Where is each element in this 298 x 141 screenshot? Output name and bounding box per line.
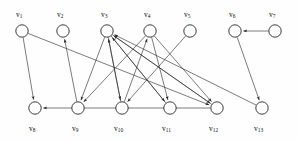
node-v11[interactable] [164,102,176,114]
node-label-sub-v7: 7 [273,13,276,19]
bipartite-graph-figure: v1v2v3v4v5v6v7v8v9v10v11v12v13 [0,0,298,141]
node-label-sub-v3: 3 [105,13,108,19]
node-label-v2: v2 [57,10,63,19]
node-v3[interactable] [101,25,113,37]
node-v7[interactable] [269,25,281,37]
node-label-v9: v9 [72,124,78,133]
node-label-v7: v7 [269,10,275,19]
node-v10[interactable] [116,102,128,114]
node-label-sub-v2: 2 [61,13,64,19]
node-label-sub-v8: 8 [33,127,36,133]
node-label-sub-v10: 10 [118,127,123,133]
node-label-sub-v5: 5 [188,13,191,19]
node-v4[interactable] [144,25,156,37]
node-label-sub-v12: 12 [213,127,218,133]
node-v1[interactable] [16,25,28,37]
node-label-v5: v5 [184,10,190,19]
edge-v4-to-v12 [154,36,211,102]
edge-v6-to-v13 [237,37,259,100]
node-label-v3: v3 [101,10,107,19]
edge-layer [23,31,268,108]
edge-v1-to-v12 [28,33,209,104]
edge-v9-to-v2 [65,39,77,101]
edge-v10-to-v3 [109,39,121,101]
node-label-v4: v4 [144,10,150,19]
node-v9[interactable] [72,102,84,114]
edge-v1-to-v8 [23,38,34,100]
node-label-sub-v1: 1 [20,13,23,19]
node-label-sub-v11: 11 [166,127,171,133]
node-v12[interactable] [211,102,223,114]
node-label-v6: v6 [229,10,235,19]
node-v2[interactable] [57,25,69,37]
edge-v3-to-v9 [81,37,105,100]
node-v6[interactable] [229,25,241,37]
node-label-v8: v8 [29,124,35,133]
node-v8[interactable] [29,102,41,114]
node-v13[interactable] [256,102,268,114]
edge-v11-to-v3 [112,38,166,103]
edge-v4-to-v11 [152,37,168,99]
graph-canvas [0,0,298,141]
node-label-v12: v12 [209,124,218,133]
node-layer [16,25,281,114]
node-label-sub-v4: 4 [148,13,151,19]
node-label-v1: v1 [16,10,22,19]
node-v5[interactable] [184,25,196,37]
node-label-sub-v13: 13 [258,127,263,133]
node-label-v11: v11 [162,124,171,133]
node-label-v10: v10 [114,124,123,133]
node-label-sub-v9: 9 [76,127,79,133]
node-label-sub-v6: 6 [233,13,236,19]
node-label-v13: v13 [254,124,263,133]
